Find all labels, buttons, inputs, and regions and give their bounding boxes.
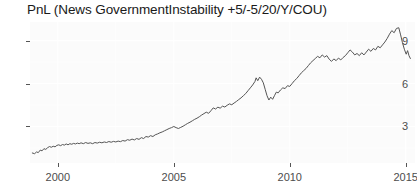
grid-lines: [30, 22, 415, 163]
x-tick-label: 2005: [162, 171, 186, 183]
x-tick-label: 2015: [393, 171, 417, 183]
plot-svg: [30, 22, 415, 163]
x-tick-mark: [406, 163, 407, 167]
chart-title: PnL (News GovernmentInstability +5/-5/20…: [27, 2, 327, 17]
pnl-line-series: [32, 28, 410, 154]
x-tick-mark: [174, 163, 175, 167]
x-tick-mark: [58, 163, 59, 167]
plot-panel: [30, 22, 415, 163]
chart-screenshot: PnL (News GovernmentInstability +5/-5/20…: [0, 0, 417, 195]
x-tick-label: 2000: [46, 171, 70, 183]
x-tick-mark: [290, 163, 291, 167]
x-tick-label: 2010: [278, 171, 302, 183]
